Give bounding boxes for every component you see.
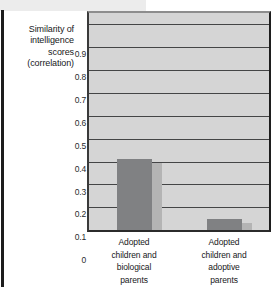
bar[interactable]: [207, 219, 242, 230]
gridline: [89, 24, 269, 25]
x-axis-category-label: Adoptedchildren andbiologicalparents: [89, 236, 179, 286]
gridline: [89, 70, 269, 71]
y-axis-tick-label: 0.8: [60, 73, 86, 82]
gridline: [89, 47, 269, 48]
y-axis-tick-label: 0.2: [60, 210, 86, 219]
y-axis-tick-label: 0.4: [60, 164, 86, 173]
plot-inner: [89, 13, 269, 230]
x-axis-category-label-line: Adopted: [89, 236, 179, 249]
y-axis-tick-label: 0.6: [60, 118, 86, 127]
gridline: [89, 93, 269, 94]
x-axis-category-label: Adoptedchildren andadoptiveparents: [179, 236, 269, 286]
x-axis-category-label-line: parents: [89, 274, 179, 287]
x-axis-category-label-line: Adopted: [179, 236, 269, 249]
bar-shadow: [152, 163, 162, 230]
y-axis-tick-label: 0.9: [60, 50, 86, 59]
plot-area: [87, 11, 271, 232]
bar-shadow: [242, 223, 252, 230]
x-axis-category-label-line: children and: [179, 249, 269, 262]
x-axis-category-label-line: children and: [89, 249, 179, 262]
gridline: [89, 139, 269, 140]
x-axis-category-label-line: adoptive: [179, 261, 269, 274]
y-axis-tick-label: 0.3: [60, 187, 86, 196]
x-axis-category-labels: Adoptedchildren andbiologicalparentsAdop…: [87, 236, 271, 298]
y-axis-tick-label: 0.7: [60, 96, 86, 105]
bar[interactable]: [117, 159, 152, 230]
y-axis-tick-labels: 0.90.80.70.60.50.40.30.20.10: [60, 27, 86, 232]
y-axis-tick-label: 0.1: [60, 233, 86, 242]
x-axis-category-label-line: biological: [89, 261, 179, 274]
x-axis-category-label-line: parents: [179, 274, 269, 287]
y-axis-tick-label: 0.5: [60, 141, 86, 150]
y-axis-tick-label: 0: [60, 256, 86, 265]
bar-chart-figure: Similarity of intelligence scores (corre…: [0, 0, 280, 304]
gridline: [89, 116, 269, 117]
